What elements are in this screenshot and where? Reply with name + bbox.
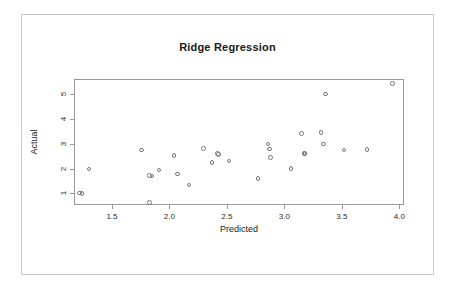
x-axis-tick-label: 2.5 <box>221 212 232 221</box>
x-axis-tick <box>227 205 228 209</box>
data-point <box>321 142 326 147</box>
data-point <box>80 191 85 196</box>
data-point <box>319 130 324 135</box>
data-point <box>342 148 347 153</box>
x-axis-tick-label: 1.5 <box>106 212 117 221</box>
plot-title: Ridge Regression <box>22 41 433 53</box>
data-point <box>323 92 328 97</box>
x-axis-tick-label: 4.0 <box>394 212 405 221</box>
data-point <box>227 159 232 164</box>
data-point <box>266 142 271 147</box>
y-axis-label: Actual <box>29 129 39 154</box>
data-point <box>256 176 261 181</box>
scatter-points-layer <box>75 80 403 204</box>
x-axis-label: Predicted <box>74 224 404 234</box>
data-point <box>267 147 272 152</box>
y-axis-tick-label: 1 <box>59 191 68 195</box>
data-point <box>172 153 177 158</box>
x-axis-tick <box>284 205 285 209</box>
data-point <box>210 160 215 165</box>
data-point <box>390 81 395 86</box>
data-point <box>216 152 221 157</box>
x-axis-tick <box>112 205 113 209</box>
data-point <box>303 151 308 156</box>
y-axis-tick-label: 2 <box>59 166 68 170</box>
x-axis-tick <box>399 205 400 209</box>
data-point <box>268 155 273 160</box>
data-point <box>289 166 294 171</box>
data-point <box>187 183 192 188</box>
y-axis-tick-label: 5 <box>59 92 68 96</box>
y-axis-tick-label: 3 <box>59 142 68 146</box>
x-axis-tick-label: 3.5 <box>336 212 347 221</box>
y-axis-tick <box>70 193 74 194</box>
x-axis-tick <box>169 205 170 209</box>
data-point <box>201 146 206 151</box>
x-axis-tick-label: 2.0 <box>164 212 175 221</box>
data-point <box>87 167 92 172</box>
y-axis-tick-label: 4 <box>59 117 68 121</box>
data-point <box>157 168 162 173</box>
plot-area <box>74 79 404 205</box>
y-axis-tick <box>70 119 74 120</box>
data-point <box>175 172 180 177</box>
y-axis-tick <box>70 144 74 145</box>
y-axis-tick <box>70 169 74 170</box>
data-point <box>299 131 304 136</box>
figure-frame: Ridge Regression 1.52.02.53.03.54.012345… <box>21 14 434 275</box>
x-axis-tick-label: 3.0 <box>279 212 290 221</box>
data-point <box>139 148 144 153</box>
data-point <box>150 174 155 179</box>
data-point <box>365 147 370 152</box>
x-axis-tick <box>342 205 343 209</box>
y-axis-tick <box>70 94 74 95</box>
data-point <box>147 200 152 205</box>
